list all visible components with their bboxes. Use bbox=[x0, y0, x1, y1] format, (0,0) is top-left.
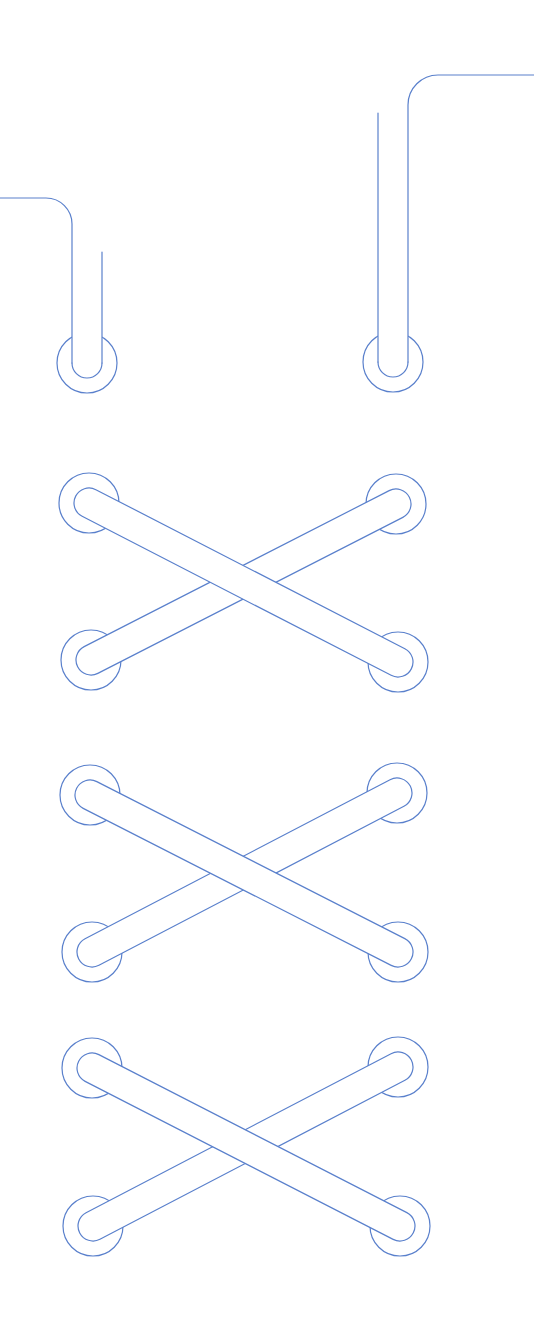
lace-fill bbox=[72, 252, 102, 363]
lace-fill bbox=[378, 113, 408, 362]
shoelace-illustration bbox=[0, 0, 534, 1332]
